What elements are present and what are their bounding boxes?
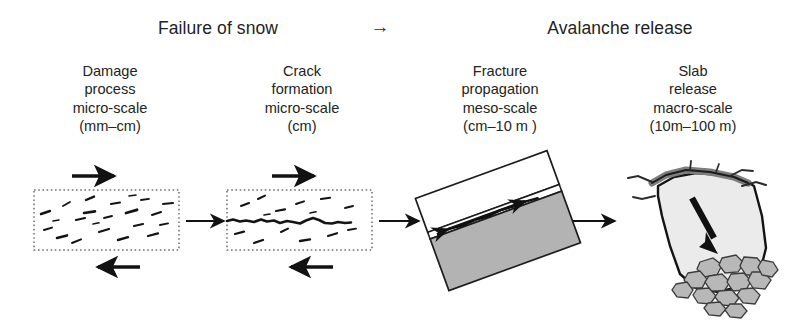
- panel-crack-formation: [227, 176, 372, 267]
- avalanche-process-figure: Failure of snow → Avalanche release Dama…: [0, 0, 794, 326]
- panel-damage-process: [34, 176, 179, 267]
- process-artwork: [0, 0, 794, 326]
- panel-slab-release: [628, 161, 778, 318]
- panel-fracture-propagation: [415, 151, 580, 291]
